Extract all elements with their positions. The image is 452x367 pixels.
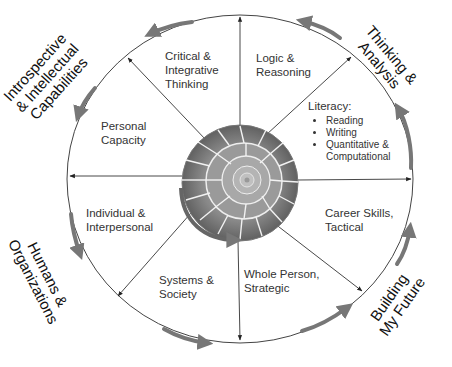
segment-logic-reasoning: Logic & Reasoning <box>256 51 311 79</box>
literacy-title: Literacy: <box>308 99 390 113</box>
literacy-item: Writing <box>326 127 390 139</box>
literacy-item: Quantitative & <box>326 139 390 151</box>
framework-diagram: Thinking & Analysis Building My Future H… <box>0 0 452 367</box>
segment-career-skills: Career Skills, Tactical <box>325 206 393 234</box>
literacy-list: Reading Writing Quantitative & Computati… <box>308 115 390 163</box>
segment-line: Capacity <box>101 133 146 147</box>
segment-line: Society <box>159 287 214 301</box>
segment-line: Whole Person, <box>244 267 319 281</box>
segment-line: Career Skills, <box>325 206 393 220</box>
segment-whole-person: Whole Person, Strategic <box>244 267 319 295</box>
segment-systems-society: Systems & Society <box>159 273 214 301</box>
literacy-item: Computational <box>326 151 390 163</box>
segment-line: Logic & <box>256 51 311 65</box>
segment-personal-capacity: Personal Capacity <box>101 119 146 147</box>
nautilus-shell-icon <box>181 125 298 241</box>
segment-line: Tactical <box>325 220 393 234</box>
segment-line: Reasoning <box>256 65 311 79</box>
segment-literacy: Literacy: Reading Writing Quantitative &… <box>308 99 390 163</box>
segment-line: Critical & <box>165 49 219 63</box>
segment-line: Integrative <box>165 63 219 77</box>
segment-critical-thinking: Critical & Integrative Thinking <box>165 49 219 91</box>
segment-line: Systems & <box>159 273 214 287</box>
segment-line: Thinking <box>165 77 219 91</box>
segment-line: Strategic <box>244 281 319 295</box>
segment-line: Individual & <box>86 206 153 220</box>
segment-line: Personal <box>101 119 146 133</box>
segment-line: Interpersonal <box>86 220 153 234</box>
literacy-item: Reading <box>326 115 390 127</box>
segment-individual-interpersonal: Individual & Interpersonal <box>86 206 153 234</box>
